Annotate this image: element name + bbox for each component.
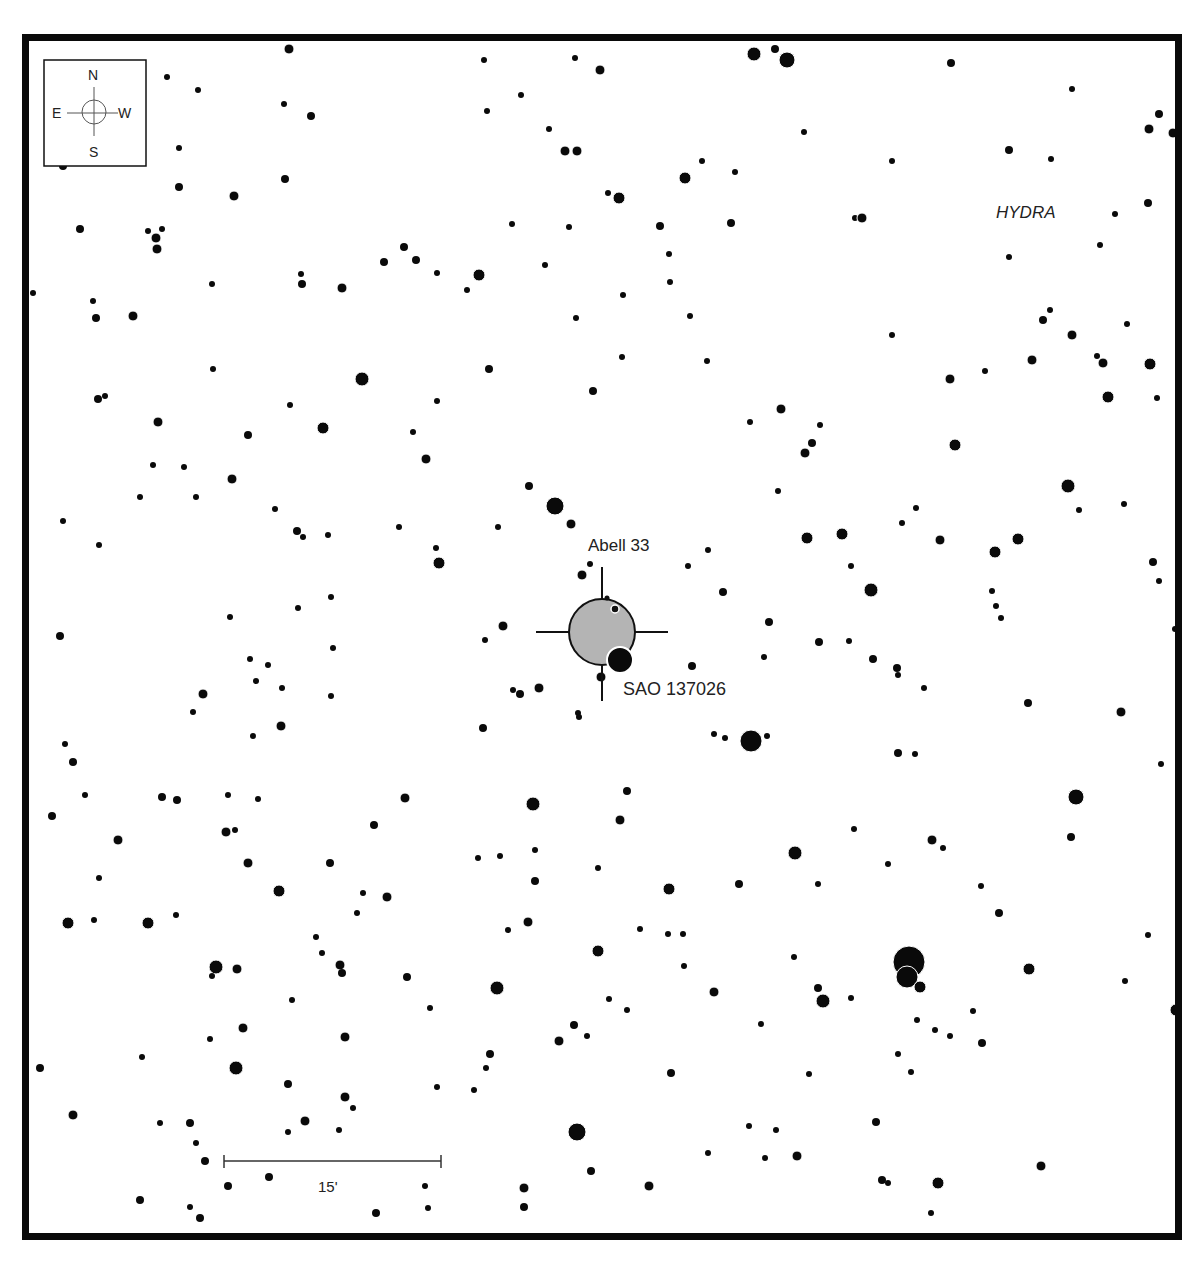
star-icon [927,835,937,845]
star-icon [816,994,830,1008]
star-icon [519,1183,529,1193]
star-icon [679,172,691,184]
sao-star-label: SAO 137026 [623,679,726,699]
star-icon [479,724,487,732]
star-icon [727,219,735,227]
star-icon [238,1023,248,1033]
star-icon [815,881,821,887]
star-icon [947,1033,953,1039]
star-icon [525,482,533,490]
star-icon [667,1069,675,1077]
star-icon [921,685,927,691]
star-icon [666,251,672,257]
star-icon [1005,146,1013,154]
star-icon [221,827,231,837]
star-icon [225,792,231,798]
star-icon [808,439,816,447]
star-icon [1006,254,1012,260]
star-icon [326,859,334,867]
star-icon [773,1127,779,1133]
star-icon [704,358,710,364]
star-icon [475,855,481,861]
star-icon [885,1180,891,1186]
star-icon [1155,110,1163,118]
star-icon [851,826,857,832]
star-icon [1076,507,1082,513]
star-icon [895,672,901,678]
star-icon [791,954,797,960]
star-icon [137,494,143,500]
star-icon [1094,353,1100,359]
star-icon [338,969,346,977]
star-icon [665,931,671,937]
star-icon [422,1183,428,1189]
star-icon [330,645,336,651]
star-icon [421,454,431,464]
star-in-nebula [605,596,610,601]
star-icon [483,1065,489,1071]
star-icon [434,398,440,404]
star-icon [91,917,97,923]
star-icon [335,960,345,970]
star-icon [1145,932,1151,938]
star-icon [1144,199,1152,207]
star-icon [989,588,995,594]
star-icon [232,827,238,833]
star-icon [605,190,611,196]
star-icon [815,638,823,646]
star-icon [747,47,761,61]
star-icon [711,731,717,737]
star-icon [396,524,402,530]
star-icon [709,987,719,997]
star-icon [152,244,162,254]
star-icon [298,280,306,288]
star-icon [620,292,626,298]
star-icon [554,1036,564,1046]
star-icon [908,1069,914,1075]
star-icon [914,981,926,993]
star-icon [113,835,123,845]
star-icon [142,917,154,929]
star-icon [201,1157,209,1165]
star-icon [281,101,287,107]
star-icon [319,950,325,956]
star-icon [227,614,233,620]
star-icon [471,1087,477,1093]
star-icon [792,1151,802,1161]
star-icon [570,1021,578,1029]
star-icon [1069,86,1075,92]
star-icon [595,865,601,871]
star-icon [577,570,587,580]
star-icon [801,129,807,135]
star-icon [836,528,848,540]
star-icon [732,169,738,175]
star-icon [482,637,488,643]
star-icon [761,654,767,660]
star-icon [1068,789,1084,805]
star-icon [546,497,564,515]
star-icon [878,1176,886,1184]
star-icon [253,678,259,684]
star-icon [313,934,319,940]
star-icon [1158,761,1164,767]
star-icon [899,520,905,526]
star-icon [495,524,501,530]
star-icon [1098,358,1108,368]
star-icon [928,1210,934,1216]
star-icon [187,1204,193,1210]
star-icon [128,311,138,321]
star-icon [869,655,877,663]
star-icon [434,1084,440,1090]
star-icon [68,1110,78,1120]
star-icon [336,1127,342,1133]
star-icon [560,146,570,156]
star-icon [196,1214,204,1222]
star-icon [293,527,301,535]
star-icon [1024,699,1032,707]
star-icon [1121,501,1127,507]
star-icon [534,683,544,693]
sao-star-icon[interactable] [607,647,633,673]
star-icon [30,290,36,296]
star-icon [932,1177,944,1189]
star-icon [289,997,295,1003]
